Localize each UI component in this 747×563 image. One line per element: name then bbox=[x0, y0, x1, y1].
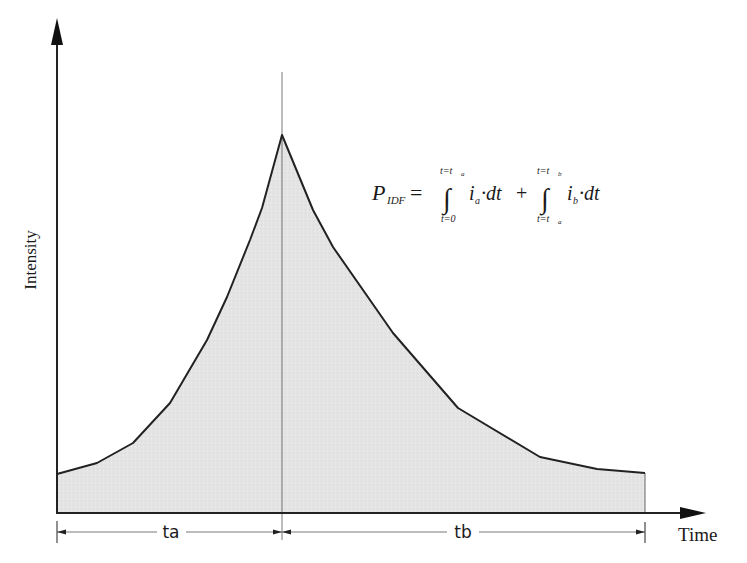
interval-tb-label: tb bbox=[454, 522, 471, 542]
interval-tb-dimension: tb bbox=[282, 522, 645, 543]
integral-sign-icon: ∫ bbox=[441, 183, 453, 216]
term2-lower-limit: t=t bbox=[537, 213, 550, 224]
term1-differential: ·dt bbox=[481, 182, 502, 204]
term1-upper-limit-sub: a bbox=[461, 170, 465, 178]
formula-lhs-subscript: IDF bbox=[386, 194, 406, 206]
formula-plus: + bbox=[516, 182, 527, 204]
diagram-canvas: Intensity Time ta tb P IDF = t=t bbox=[0, 0, 747, 563]
term2-upper-limit-sub: b bbox=[558, 170, 562, 178]
term2-integrand: i bbox=[567, 182, 573, 204]
formula-lhs-symbol: P bbox=[371, 180, 385, 205]
term1-lower-limit: t=0 bbox=[441, 213, 456, 224]
area-under-curve bbox=[57, 135, 645, 513]
term1-integrand: i bbox=[469, 182, 475, 204]
y-axis-label: Intensity bbox=[21, 230, 40, 290]
term1-integrand-sub: a bbox=[475, 195, 480, 206]
y-axis-arrow-icon bbox=[51, 18, 63, 45]
y-axis bbox=[51, 18, 63, 514]
term2-integrand-sub: b bbox=[573, 195, 578, 206]
term2-lower-limit-sub: a bbox=[558, 218, 562, 226]
term2-upper-limit: t=t bbox=[537, 165, 550, 176]
interval-ta-dimension: ta bbox=[57, 521, 282, 543]
clipped-caption-fragment bbox=[60, 553, 747, 563]
term1-upper-limit: t=t bbox=[440, 165, 453, 176]
interval-ta-label: ta bbox=[162, 522, 179, 542]
x-axis-arrow-icon bbox=[680, 507, 706, 519]
x-axis-label: Time bbox=[678, 524, 717, 545]
integral-sign-icon: ∫ bbox=[539, 183, 551, 216]
term2-differential: ·dt bbox=[579, 182, 600, 204]
formula-equals: = bbox=[410, 180, 422, 205]
integral-formula: P IDF = t=t a ∫ t=0 i a ·dt + t=t b ∫ t=… bbox=[371, 165, 600, 226]
